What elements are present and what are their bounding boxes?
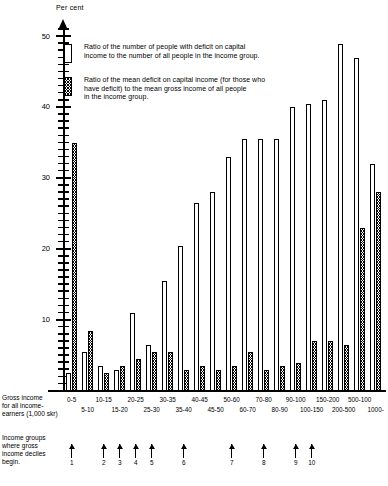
bar-people-ratio [322, 100, 327, 391]
x-tick-label: 50-60 [216, 396, 248, 403]
y-tick-label: 30 [28, 173, 50, 182]
decile-arrow-head-icon [149, 444, 155, 449]
bar-group [162, 26, 173, 391]
y-axis-title: Per cent [56, 4, 84, 11]
bar-group [194, 26, 205, 391]
bar-people-ratio [370, 164, 375, 391]
bar-deficit-ratio [248, 352, 253, 391]
bar-group [258, 26, 269, 391]
bar-people-ratio [98, 366, 103, 391]
decile-arrow-icon [135, 444, 136, 458]
bar-group [82, 26, 93, 391]
decile-arrow-head-icon [101, 444, 107, 449]
x-tick-label: 70-80 [248, 396, 280, 403]
bar-people-ratio [226, 157, 231, 391]
bar-deficit-ratio [136, 359, 141, 391]
decile-number: 10 [305, 459, 319, 466]
bar-group [370, 26, 381, 391]
bar-group [130, 26, 141, 391]
x-tick-label: 45-50 [200, 406, 232, 413]
decile-arrow-icon [103, 444, 104, 458]
bar-people-ratio [242, 139, 247, 391]
bar-deficit-ratio [376, 192, 381, 391]
bar-deficit-ratio [88, 331, 93, 391]
decile-marker: 7 [225, 444, 239, 466]
bar-people-ratio [258, 139, 263, 391]
decile-number: 8 [257, 459, 271, 466]
bar-group [290, 26, 301, 391]
x-tick-label: 1000- [360, 406, 388, 413]
bar-group [146, 26, 157, 391]
bar-deficit-ratio [216, 370, 221, 391]
x-tick-label: 150-200 [312, 396, 344, 403]
bar-deficit-ratio [152, 352, 157, 391]
bar-deficit-ratio [200, 366, 205, 391]
bar-deficit-ratio [296, 363, 301, 391]
decile-number: 2 [97, 459, 111, 466]
x-tick-label: 100-150 [296, 406, 328, 413]
decile-marker: 1 [65, 444, 79, 466]
decile-arrow-icon [151, 444, 152, 458]
decile-marker: 5 [145, 444, 159, 466]
bar-people-ratio [194, 203, 199, 391]
bar-group [98, 26, 109, 391]
bar-group [210, 26, 221, 391]
bar-deficit-ratio [72, 143, 77, 391]
bar-deficit-ratio [104, 373, 109, 391]
chart-figure: Per cent 1020304050 Ratio of the number … [0, 0, 388, 486]
y-tick-label: 50 [28, 32, 50, 41]
bar-deficit-ratio [344, 345, 349, 391]
bar-people-ratio [66, 373, 71, 391]
bar-deficit-ratio [312, 341, 317, 391]
bar-group [242, 26, 253, 391]
x-tick-label: 25-30 [136, 406, 168, 413]
decile-marker: 10 [305, 444, 319, 466]
decile-arrow-icon [311, 444, 312, 458]
x-tick-label: 15-20 [104, 406, 136, 413]
decile-arrow-head-icon [229, 444, 235, 449]
decile-arrow-head-icon [293, 444, 299, 449]
bar-group [274, 26, 285, 391]
decile-number: 5 [145, 459, 159, 466]
bar-group [66, 26, 77, 391]
x-axis-caption: Gross income for all income- earners (1,… [2, 394, 62, 418]
bar-deficit-ratio [328, 341, 333, 391]
y-tick-label: 20 [28, 244, 50, 253]
decile-arrow-icon [263, 444, 264, 458]
plot-area [64, 26, 386, 391]
bar-people-ratio [82, 352, 87, 391]
bar-deficit-ratio [184, 370, 189, 391]
bar-people-ratio [210, 192, 215, 391]
x-tick-label: 5-10 [72, 406, 104, 413]
decile-arrow-icon [295, 444, 296, 458]
bar-people-ratio [114, 370, 119, 391]
decile-arrow-head-icon [133, 444, 139, 449]
decile-arrow-icon [231, 444, 232, 458]
decile-marker: 6 [177, 444, 191, 466]
bar-deficit-ratio [168, 352, 173, 391]
decile-number: 6 [177, 459, 191, 466]
decile-arrow-head-icon [181, 444, 187, 449]
bar-people-ratio [130, 313, 135, 391]
bar-people-ratio [274, 139, 279, 391]
bar-group [322, 26, 333, 391]
x-tick-label: 90-100 [280, 396, 312, 403]
bar-deficit-ratio [264, 370, 269, 391]
x-tick-label: 20-25 [120, 396, 152, 403]
decile-arrow-head-icon [69, 444, 75, 449]
bar-people-ratio [338, 44, 343, 391]
decile-number: 9 [289, 459, 303, 466]
decile-number: 4 [129, 459, 143, 466]
decile-arrow-icon [119, 444, 120, 458]
decile-arrow-icon [183, 444, 184, 458]
decile-number: 7 [225, 459, 239, 466]
bar-deficit-ratio [120, 366, 125, 391]
x-tick-label: 35-40 [168, 406, 200, 413]
x-tick-label: 200-500 [328, 406, 360, 413]
decile-arrow-icon [71, 444, 72, 458]
decile-marker: 3 [113, 444, 127, 466]
x-tick-label: 80-90 [264, 406, 296, 413]
decile-arrow-head-icon [261, 444, 267, 449]
decile-arrow-head-icon [117, 444, 123, 449]
decile-number: 3 [113, 459, 127, 466]
